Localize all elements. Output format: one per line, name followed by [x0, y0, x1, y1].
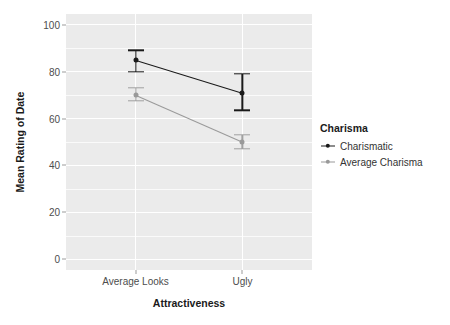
gridline-minor-horizontal	[66, 142, 312, 143]
y-axis-tick-label: 40	[49, 160, 60, 171]
x-axis-tick-mark	[242, 270, 243, 274]
legend-key-icon	[320, 138, 336, 154]
chart-container: Mean Rating of Date 020406080100 Average…	[0, 0, 450, 325]
legend-title: Charisma	[320, 122, 446, 134]
data-point	[133, 93, 138, 98]
legend-item-2[interactable]: Average Charisma	[320, 154, 446, 170]
series-line-1	[135, 60, 242, 94]
error-bar-cap	[128, 50, 144, 51]
data-point	[240, 140, 245, 145]
error-bar-cap	[234, 134, 250, 135]
gridline-major-horizontal	[66, 259, 312, 260]
gridline-minor-horizontal	[66, 236, 312, 237]
error-bar-cap	[128, 71, 144, 72]
legend-item-1[interactable]: Charismatic	[320, 138, 446, 154]
gridline-major-horizontal	[66, 71, 312, 72]
gridline-major-horizontal	[66, 212, 312, 213]
plot-panel	[66, 14, 312, 270]
y-axis-ticks: 020406080100	[34, 14, 66, 270]
x-axis-title: Attractiveness	[66, 297, 312, 309]
legend-key-icon	[320, 154, 336, 170]
y-axis-tick-label: 0	[54, 254, 60, 265]
error-bar-cap	[234, 110, 250, 111]
y-axis-tick-label: 60	[49, 113, 60, 124]
error-bar-cap	[234, 148, 250, 149]
y-axis-title-label: Mean Rating of Date	[14, 92, 26, 193]
gridline-major-horizontal	[66, 165, 312, 166]
x-axis-tick-label: Ugly	[232, 276, 252, 287]
data-point	[133, 57, 138, 62]
gridline-major-horizontal	[66, 24, 312, 25]
legend-key-dot	[326, 160, 330, 164]
error-bar-cap	[128, 100, 144, 101]
x-axis-tick-mark	[135, 270, 136, 274]
gridline-minor-horizontal	[66, 48, 312, 49]
legend-item-label: Average Charisma	[340, 157, 423, 168]
gridline-minor-horizontal	[66, 189, 312, 190]
x-axis-tick-label: Average Looks	[102, 276, 169, 287]
y-axis-tick-label: 80	[49, 66, 60, 77]
legend-entries: CharismaticAverage Charisma	[320, 138, 446, 170]
data-point	[240, 90, 245, 95]
legend-item-label: Charismatic	[340, 141, 393, 152]
error-bar-cap	[234, 73, 250, 74]
y-axis-tick-label: 20	[49, 207, 60, 218]
y-axis-title: Mean Rating of Date	[12, 20, 28, 264]
y-axis-tick-label: 100	[43, 19, 60, 30]
gridline-minor-horizontal	[66, 95, 312, 96]
x-axis-ticks: Average LooksUgly	[66, 270, 312, 290]
legend-key-dot	[326, 144, 330, 148]
error-bar-cap	[128, 87, 144, 88]
legend: Charisma CharismaticAverage Charisma	[320, 122, 446, 170]
